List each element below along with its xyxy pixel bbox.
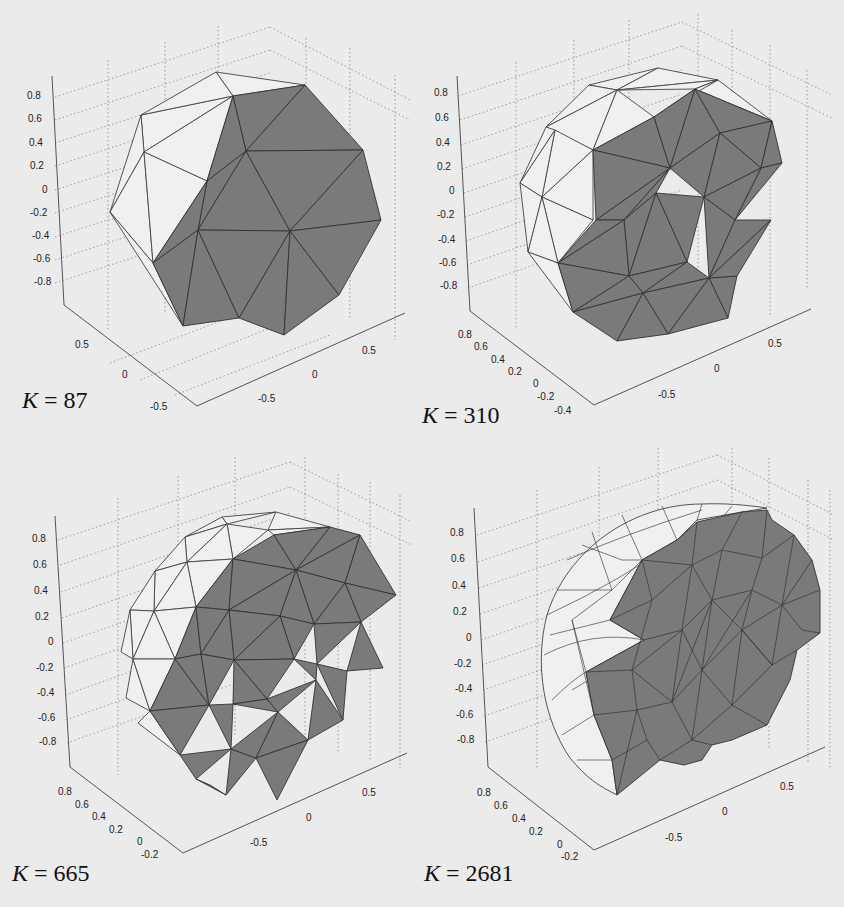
z-tick: 0.6 [435,112,449,123]
y-tick: 0.4 [491,354,505,365]
y-tick: -0.2 [561,851,579,862]
x-tick: 0 [306,812,312,823]
z-tick: -0.2 [36,662,54,673]
z-tick: 0.8 [32,533,46,544]
x-tick: -0.5 [250,837,268,848]
z-tick: -0.4 [455,683,473,694]
x-tick: 0 [722,806,728,817]
z-tick: 0.2 [437,161,451,172]
z-tick: 0.4 [452,580,466,591]
x-tick: 0 [714,363,720,374]
y-tick: 0.8 [58,786,72,797]
y-tick: 0.4 [512,813,526,824]
x-tick: -0.5 [658,389,676,400]
z-tick: 0.2 [453,606,467,617]
z-tick: 0.2 [35,611,49,622]
sphere-mesh-plot: 0.8 0.6 0.4 0.2 0 -0.2 -0.4 -0.6 -0.8 0.… [0,440,422,907]
z-tick: 0.4 [436,137,450,148]
z-tick: 0.2 [30,160,44,171]
x-tick: 0.5 [780,781,794,792]
y-tick: 0 [557,839,563,850]
y-tick: 0.6 [75,799,89,810]
x-tick: 0 [312,369,318,380]
z-tick: -0.2 [30,207,48,218]
y-tick: -0.2 [537,391,555,402]
z-tick: -0.8 [440,280,458,291]
z-tick: 0 [449,185,455,196]
y-tick: 0.8 [458,329,472,340]
y-tick: 0.6 [494,800,508,811]
z-tick: -0.8 [457,734,475,745]
y-tick: -0.5 [150,401,168,412]
z-tick: -0.6 [33,253,51,264]
panel-caption: K = 310 [422,402,500,429]
x-tick: -0.5 [665,832,683,843]
z-tick: -0.4 [438,234,456,245]
z-tick: -0.8 [34,276,52,287]
y-tick: 0.2 [109,824,123,835]
y-tick: 0 [122,369,128,380]
z-tick: -0.2 [454,658,472,669]
sphere-mesh-plot: 0.8 0.6 0.4 0.2 0 -0.2 -0.4 -0.6 -0.8 0.… [0,0,422,440]
z-tick: -0.4 [32,230,50,241]
panel-caption: K = 665 [12,860,90,887]
x-tick: 0.5 [768,338,782,349]
z-tick: -0.8 [39,736,57,747]
x-tick: 0.5 [362,787,376,798]
y-tick: -0.2 [141,849,159,860]
z-tick: 0.4 [29,137,43,148]
panel-caption: K = 2681 [424,860,514,887]
panel-caption: K = 87 [22,387,88,414]
y-tick: 0.5 [75,339,89,350]
y-tick: 0.8 [477,787,491,798]
z-tick: 0 [42,184,48,195]
z-tick: 0 [466,632,472,643]
plot-panel-k665: 0.8 0.6 0.4 0.2 0 -0.2 -0.4 -0.6 -0.8 0.… [0,440,422,907]
plot-panel-k310: 0.8 0.6 0.4 0.2 0 -0.2 -0.4 -0.6 -0.8 0.… [422,0,844,440]
z-tick: -0.6 [38,712,56,723]
y-tick: 0.2 [508,366,522,377]
plot-panel-k2681: 0.8 0.6 0.4 0.2 0 -0.2 -0.4 -0.6 -0.8 0.… [422,440,844,907]
z-tick: 0.6 [451,553,465,564]
y-tick: 0.2 [529,826,543,837]
z-tick: 0.8 [450,527,464,538]
z-tick: -0.6 [439,257,457,268]
y-tick: 0 [137,836,143,847]
y-tick: 0.4 [92,811,106,822]
z-tick: -0.6 [456,709,474,720]
x-tick: 0.5 [362,345,376,356]
z-tick: -0.2 [437,209,455,220]
z-tick: 0 [48,636,54,647]
z-tick: 0.6 [33,559,47,570]
plot-panel-k87: 0.8 0.6 0.4 0.2 0 -0.2 -0.4 -0.6 -0.8 0.… [0,0,422,440]
sphere-mesh-plot: 0.8 0.6 0.4 0.2 0 -0.2 -0.4 -0.6 -0.8 0.… [422,0,844,440]
z-tick: 0.4 [34,585,48,596]
z-tick: 0.8 [434,87,448,98]
z-tick: 0.8 [27,90,41,101]
y-tick: 0 [533,378,539,389]
z-tick: 0.6 [28,113,42,124]
x-tick: -0.5 [258,393,276,404]
y-tick: -0.4 [554,405,572,416]
sphere-mesh-plot: 0.8 0.6 0.4 0.2 0 -0.2 -0.4 -0.6 -0.8 0.… [422,440,844,907]
z-tick: -0.4 [37,687,55,698]
y-tick: 0.6 [474,341,488,352]
